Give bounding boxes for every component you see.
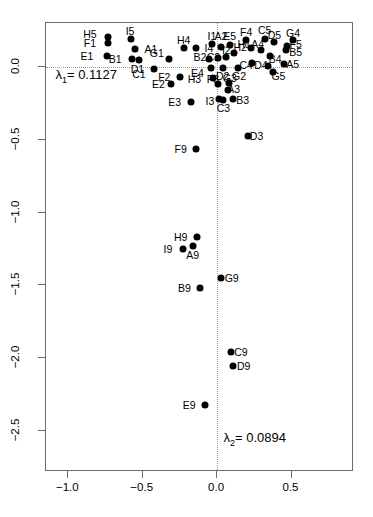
data-point-label: G5 [271, 71, 285, 82]
y-axis-tick [38, 212, 45, 213]
x-axis-tick [67, 471, 68, 478]
data-point-label: E9 [183, 399, 196, 410]
data-point-label: B9 [178, 283, 191, 294]
data-point-label: F3 [207, 74, 219, 85]
y-axis-tick [38, 139, 45, 140]
x-axis-tick-label: −1.0 [56, 481, 79, 493]
eigenvalue-2: λ2= 0.0894 [224, 430, 286, 448]
data-point [165, 55, 172, 62]
data-point-label: C1 [132, 69, 145, 80]
data-point-label: H3 [188, 74, 201, 85]
data-point-label: B2 [194, 52, 207, 63]
data-point [105, 40, 112, 47]
data-point-label: D4 [254, 60, 267, 71]
data-point [188, 99, 195, 106]
data-point-label: C4 [239, 60, 252, 71]
data-point-label: G9 [225, 273, 239, 284]
data-point-label: C9 [234, 347, 247, 358]
x-axis-tick [142, 471, 143, 478]
x-axis-tick [216, 471, 217, 478]
data-point [131, 45, 138, 52]
data-point [230, 362, 237, 369]
y-axis-tick-label: −1.0 [9, 200, 21, 223]
data-point-label: I9 [164, 243, 173, 254]
data-point-label: G4 [286, 28, 300, 39]
scatter-plot-figure: H5F1E1B1I5A1D1C1G1F2E2E3H4I4I1A2E5B2C2I2… [0, 0, 373, 517]
data-point [194, 234, 201, 241]
data-point-label: G1 [150, 48, 164, 59]
y-axis-tick-label: −2.5 [9, 419, 21, 442]
data-point-label: F1 [84, 38, 96, 49]
x-axis-tick-label: 0.5 [283, 481, 299, 493]
data-point-label: D3 [250, 131, 263, 142]
data-point-label: B1 [109, 54, 122, 65]
x-axis-tick-label: −0.5 [130, 481, 153, 493]
data-point-label: B3 [236, 95, 249, 106]
data-point-label: I2 [222, 45, 231, 56]
data-point [208, 41, 215, 48]
data-point-label: G3 [223, 72, 237, 83]
data-point-label: E1 [80, 51, 93, 62]
data-point-label: I5 [126, 25, 135, 36]
plot-frame: H5F1E1B1I5A1D1C1G1F2E2E3H4I4I1A2E5B2C2I2… [45, 22, 353, 471]
y-axis-tick-label: −1.5 [9, 273, 21, 296]
y-axis-tick-label: −2.0 [9, 346, 21, 369]
data-point-label: E2 [152, 79, 165, 90]
data-point-label: A9 [186, 250, 199, 261]
y-axis-tick [38, 66, 45, 67]
data-point-label: C3 [217, 102, 230, 113]
data-point [208, 65, 215, 72]
plot-data-area: H5F1E1B1I5A1D1C1G1F2E2E3H4I4I1A2E5B2C2I2… [46, 23, 352, 470]
y-axis-tick [38, 357, 45, 358]
x-axis-tick [291, 471, 292, 478]
x-axis-tick-label: 0.0 [208, 481, 224, 493]
data-point-label: A4 [251, 39, 264, 50]
y-axis-tick-label: −0.5 [9, 127, 21, 150]
data-point-label: H4 [177, 34, 190, 45]
reference-line-vertical [217, 23, 218, 470]
data-point [176, 73, 183, 80]
data-point [180, 245, 187, 252]
data-point-label: D5 [268, 30, 281, 41]
data-point [193, 145, 200, 152]
data-point-label: F4 [240, 27, 252, 38]
data-point-label: A3 [227, 83, 240, 94]
data-point-label: I3 [206, 96, 215, 107]
data-point-label: F9 [175, 143, 187, 154]
data-point-label: H9 [174, 232, 187, 243]
data-point-label: B5 [289, 47, 302, 58]
data-point [167, 80, 174, 87]
eigenvalue-1: λ1= 0.1127 [55, 67, 117, 85]
data-point-label: H1 [237, 39, 250, 50]
data-point [150, 66, 157, 73]
y-axis-tick-label: 0.0 [9, 58, 21, 74]
data-point-label: A5 [286, 59, 299, 70]
y-axis-tick [38, 284, 45, 285]
y-axis-tick [38, 430, 45, 431]
data-point [197, 285, 204, 292]
data-point [201, 401, 208, 408]
data-point-label: D9 [237, 361, 250, 372]
data-point-label: C2 [207, 52, 220, 63]
data-point-label: E3 [168, 97, 181, 108]
